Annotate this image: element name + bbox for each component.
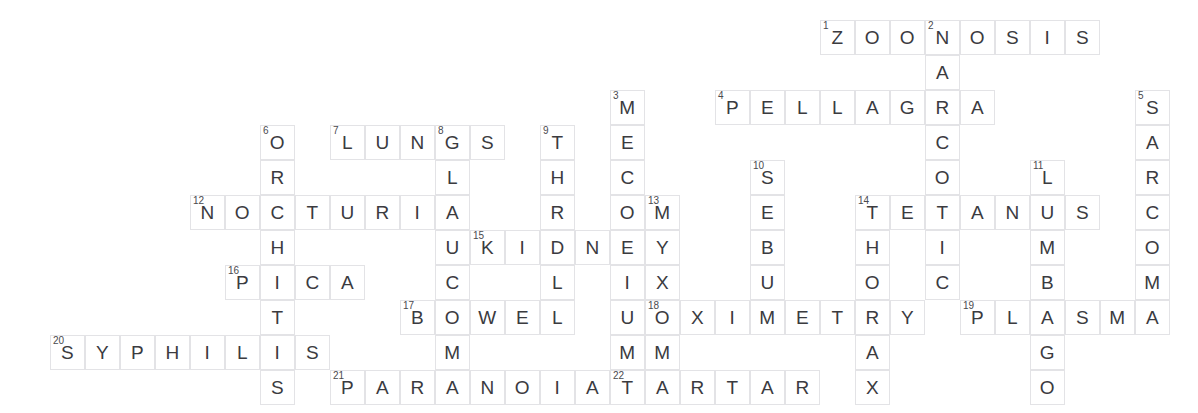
crossword-cell[interactable]: C	[925, 265, 960, 300]
crossword-cell[interactable]: L	[540, 300, 575, 335]
crossword-cell[interactable]: 9T	[540, 125, 575, 160]
crossword-cell[interactable]: I	[610, 265, 645, 300]
crossword-cell[interactable]: O	[505, 370, 540, 405]
crossword-cell[interactable]: M	[750, 300, 785, 335]
crossword-cell[interactable]: R	[540, 195, 575, 230]
crossword-cell[interactable]: O	[855, 265, 890, 300]
crossword-cell[interactable]: S	[295, 335, 330, 370]
crossword-cell[interactable]: A	[435, 370, 470, 405]
crossword-cell[interactable]: Y	[85, 335, 120, 370]
crossword-cell[interactable]: U	[330, 195, 365, 230]
crossword-cell[interactable]: A	[1030, 300, 1065, 335]
crossword-cell[interactable]: M	[1100, 300, 1135, 335]
crossword-cell[interactable]: E	[785, 300, 820, 335]
crossword-cell[interactable]: 11L	[1030, 160, 1065, 195]
crossword-cell[interactable]: R	[680, 370, 715, 405]
crossword-cell[interactable]: 14T	[855, 195, 890, 230]
crossword-cell[interactable]: S	[260, 370, 295, 405]
crossword-cell[interactable]: U	[365, 125, 400, 160]
crossword-cell[interactable]: 18O	[645, 300, 680, 335]
crossword-cell[interactable]: 3M	[610, 90, 645, 125]
crossword-cell[interactable]: Y	[645, 230, 680, 265]
crossword-cell[interactable]: L	[820, 90, 855, 125]
crossword-cell[interactable]: I	[190, 335, 225, 370]
crossword-cell[interactable]: 17B	[400, 300, 435, 335]
crossword-cell[interactable]: X	[855, 370, 890, 405]
crossword-cell[interactable]: L	[540, 265, 575, 300]
crossword-cell[interactable]: Y	[890, 300, 925, 335]
crossword-cell[interactable]: I	[1030, 20, 1065, 55]
crossword-cell[interactable]: 5S	[1135, 90, 1170, 125]
crossword-cell[interactable]: E	[750, 195, 785, 230]
crossword-cell[interactable]: U	[435, 230, 470, 265]
crossword-cell[interactable]: R	[400, 370, 435, 405]
crossword-cell[interactable]: A	[575, 370, 610, 405]
crossword-cell[interactable]: I	[715, 300, 750, 335]
crossword-cell[interactable]: S	[1065, 300, 1100, 335]
crossword-cell[interactable]: O	[925, 160, 960, 195]
crossword-cell[interactable]: E	[610, 230, 645, 265]
crossword-cell[interactable]: T	[820, 300, 855, 335]
crossword-cell[interactable]: I	[260, 265, 295, 300]
crossword-cell[interactable]: S	[1065, 195, 1100, 230]
crossword-cell[interactable]: M	[645, 335, 680, 370]
crossword-cell[interactable]: O	[1135, 230, 1170, 265]
crossword-cell[interactable]: E	[750, 90, 785, 125]
crossword-cell[interactable]: 4P	[715, 90, 750, 125]
crossword-cell[interactable]: X	[645, 265, 680, 300]
crossword-cell[interactable]: A	[1135, 300, 1170, 335]
crossword-cell[interactable]: A	[960, 195, 995, 230]
crossword-cell[interactable]: C	[925, 125, 960, 160]
crossword-cell[interactable]: 10S	[750, 160, 785, 195]
crossword-cell[interactable]: N	[575, 230, 610, 265]
crossword-cell[interactable]: M	[1135, 265, 1170, 300]
crossword-cell[interactable]: U	[1030, 195, 1065, 230]
crossword-cell[interactable]: U	[610, 300, 645, 335]
crossword-cell[interactable]: O	[610, 195, 645, 230]
crossword-cell[interactable]: C	[610, 160, 645, 195]
crossword-cell[interactable]: R	[365, 195, 400, 230]
crossword-cell[interactable]: X	[680, 300, 715, 335]
crossword-cell[interactable]: T	[295, 195, 330, 230]
crossword-cell[interactable]: I	[925, 230, 960, 265]
crossword-cell[interactable]: 13M	[645, 195, 680, 230]
crossword-cell[interactable]: R	[785, 370, 820, 405]
crossword-cell[interactable]: L	[225, 335, 260, 370]
crossword-cell[interactable]: P	[120, 335, 155, 370]
crossword-cell[interactable]: S	[995, 20, 1030, 55]
crossword-cell[interactable]: T	[260, 300, 295, 335]
crossword-cell[interactable]: A	[925, 55, 960, 90]
crossword-cell[interactable]: 16P	[225, 265, 260, 300]
crossword-cell[interactable]: 7L	[330, 125, 365, 160]
crossword-cell[interactable]: O	[855, 20, 890, 55]
crossword-cell[interactable]: H	[540, 160, 575, 195]
crossword-cell[interactable]: I	[260, 335, 295, 370]
crossword-cell[interactable]: A	[435, 195, 470, 230]
crossword-cell[interactable]: 12N	[190, 195, 225, 230]
crossword-cell[interactable]: A	[365, 370, 400, 405]
crossword-cell[interactable]: 19P	[960, 300, 995, 335]
crossword-cell[interactable]: 20S	[50, 335, 85, 370]
crossword-cell[interactable]: L	[785, 90, 820, 125]
crossword-cell[interactable]: 15K	[470, 230, 505, 265]
crossword-cell[interactable]: U	[750, 265, 785, 300]
crossword-cell[interactable]: T	[715, 370, 750, 405]
crossword-cell[interactable]: 22T	[610, 370, 645, 405]
crossword-cell[interactable]: O	[890, 20, 925, 55]
crossword-cell[interactable]: I	[505, 230, 540, 265]
crossword-cell[interactable]: N	[470, 370, 505, 405]
crossword-cell[interactable]: R	[925, 90, 960, 125]
crossword-cell[interactable]: T	[925, 195, 960, 230]
crossword-cell[interactable]: 6O	[260, 125, 295, 160]
crossword-cell[interactable]: I	[540, 370, 575, 405]
crossword-cell[interactable]: R	[260, 160, 295, 195]
crossword-cell[interactable]: R	[855, 300, 890, 335]
crossword-cell[interactable]: H	[260, 230, 295, 265]
crossword-cell[interactable]: A	[645, 370, 680, 405]
crossword-cell[interactable]: C	[435, 265, 470, 300]
crossword-cell[interactable]: M	[1030, 230, 1065, 265]
crossword-cell[interactable]: S	[470, 125, 505, 160]
crossword-cell[interactable]: L	[995, 300, 1030, 335]
crossword-cell[interactable]: A	[855, 90, 890, 125]
crossword-cell[interactable]: 1Z	[820, 20, 855, 55]
